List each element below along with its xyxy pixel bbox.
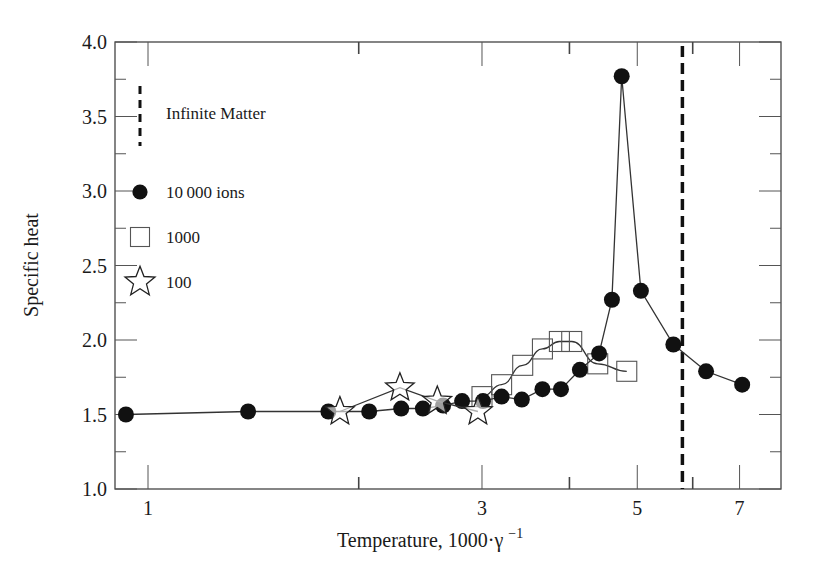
filled-circle-marker	[393, 401, 409, 417]
filled-circle-marker	[118, 407, 134, 423]
legend-item: 10 000 ions	[132, 183, 244, 202]
x-axis-title-main: Temperature, 1000·γ	[337, 529, 503, 552]
filled-circle-marker	[534, 381, 550, 397]
legend-label: 100	[166, 273, 192, 292]
y-axis-title: Specific heat	[20, 213, 43, 317]
legend-item: Infinite Matter	[140, 86, 266, 146]
legend-item: 100	[125, 266, 192, 294]
legend-label: Infinite Matter	[166, 104, 266, 123]
open-star-marker	[326, 397, 355, 424]
y-tick-label: 2.5	[82, 255, 107, 277]
open-star-marker	[386, 373, 415, 400]
open-star-marker	[125, 266, 155, 294]
y-tick-label: 4.0	[82, 31, 107, 53]
filled-circle-marker	[734, 377, 750, 393]
filled-circle-marker	[604, 292, 620, 308]
filled-circle-marker	[553, 381, 569, 397]
filled-circle-marker	[572, 362, 588, 378]
filled-circle-marker	[132, 184, 147, 199]
filled-circle-marker	[633, 283, 649, 299]
filled-circle-marker	[665, 336, 681, 352]
specific-heat-chart: 13571.01.52.02.53.03.54.0 Infinite Matte…	[0, 0, 819, 580]
x-tick-label: 5	[632, 497, 642, 519]
filled-circle-marker	[415, 401, 431, 417]
y-tick-label: 3.0	[82, 180, 107, 202]
filled-circle-marker	[361, 404, 377, 420]
legend-label: 10 000 ions	[166, 183, 245, 202]
y-tick-label: 1.5	[82, 404, 107, 426]
filled-circle-marker	[698, 363, 714, 379]
x-axis-title-superscript: −1	[508, 526, 523, 541]
x-axis-title: Temperature, 1000·γ −1	[337, 526, 523, 552]
legend: Infinite Matter10 000 ions1000100	[125, 86, 266, 295]
filled-circle-marker	[591, 345, 607, 361]
filled-circle-marker	[240, 404, 256, 420]
open-square-marker	[131, 228, 150, 247]
y-tick-label: 1.0	[82, 478, 107, 500]
x-tick-label: 3	[477, 497, 487, 519]
filled-circle-marker	[514, 392, 530, 408]
legend-item: 1000	[131, 228, 201, 248]
y-tick-label: 3.5	[82, 106, 107, 128]
legend-label: 1000	[166, 228, 200, 247]
x-tick-label: 7	[735, 497, 745, 519]
filled-circle-marker	[614, 68, 630, 84]
series-line	[126, 76, 742, 414]
filled-circle-marker	[494, 389, 510, 405]
y-tick-label: 2.0	[82, 329, 107, 351]
x-tick-label: 1	[143, 497, 153, 519]
